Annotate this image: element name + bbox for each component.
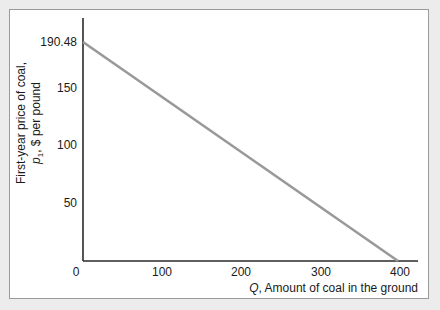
chart-svg: 190.48 150 100 50 0 100 200 300 400 Q, A… <box>0 0 440 310</box>
x-tick-200: 200 <box>231 265 251 279</box>
x-tick-0: 0 <box>73 265 80 279</box>
y-tick-150: 150 <box>57 81 77 95</box>
x-tick-300: 300 <box>311 265 331 279</box>
price-line <box>83 42 398 261</box>
y-axis-title-line1: First-year price of coal, <box>14 62 28 184</box>
x-axis-title-rest: , Amount of coal in the ground <box>259 281 418 295</box>
y-axis-title-line2: p1, $ per pound <box>29 82 45 165</box>
y-tick-190-48: 190.48 <box>40 35 77 49</box>
y-tick-100: 100 <box>57 138 77 152</box>
x-tick-400: 400 <box>390 265 410 279</box>
y-tick-50: 50 <box>64 196 78 210</box>
y-axis-title-rest: , $ per pound <box>29 82 43 153</box>
x-tick-100: 100 <box>152 265 172 279</box>
x-axis-title: Q, Amount of coal in the ground <box>249 281 418 295</box>
x-axis-var: Q <box>249 281 258 295</box>
